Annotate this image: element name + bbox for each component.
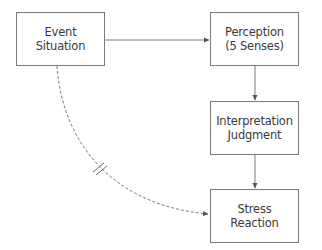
node-perception: Perception (5 Senses) — [210, 12, 299, 66]
node-label-line2: Judgment — [228, 128, 282, 142]
node-label-line1: Event — [45, 25, 77, 39]
node-label-line2: Situation — [36, 39, 86, 53]
node-label-line1: Interpretation — [216, 114, 293, 128]
double-slash-break-icon — [93, 163, 107, 175]
stress-model-diagram: Event Situation Perception (5 Senses) In… — [0, 0, 322, 250]
node-label-line2: (5 Senses) — [225, 39, 284, 53]
node-event-situation: Event Situation — [16, 12, 105, 66]
node-label-line1: Perception — [225, 25, 284, 39]
node-label-line1: Stress — [237, 202, 271, 216]
node-stress-reaction: Stress Reaction — [210, 189, 299, 243]
edge-event-to-stress-dashed — [57, 66, 208, 214]
node-label-line2: Reaction — [230, 216, 278, 230]
node-interpretation-judgment: Interpretation Judgment — [210, 101, 299, 155]
